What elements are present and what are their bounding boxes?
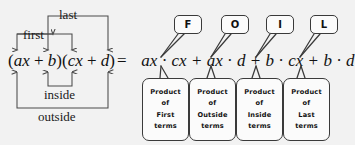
desc-outside-line4: terms [201, 121, 224, 133]
label-first: first [23, 28, 44, 41]
term-O: ax · d [207, 51, 246, 70]
desc-inside-line4: terms [248, 121, 271, 133]
letter-bubble-o: O [221, 15, 249, 34]
description-box-first: Product of First terms [142, 78, 189, 141]
term-I: b · cx [266, 51, 304, 70]
plus-sign-1: + [191, 51, 203, 70]
desc-last-line1: Product [291, 87, 322, 99]
arrow-inside [48, 72, 72, 86]
term-L: b · d [323, 51, 354, 70]
letter-bubble-i: I [266, 15, 294, 34]
plus-sign-2: + [250, 51, 262, 70]
desc-inside-line1: Product [244, 87, 275, 99]
description-box-inside: Product of Inside terms [236, 78, 283, 141]
desc-inside-line3: Inside [248, 110, 272, 122]
desc-first-line1: Product [150, 87, 181, 99]
desc-outside-line2: of [209, 98, 217, 110]
arrow-last [48, 16, 108, 50]
desc-last-line4: terms [295, 121, 318, 133]
expansion-expression: = ax · cx + ax · d + b · cx + b · d [117, 51, 355, 71]
letter-bubble-f: F [174, 15, 202, 34]
letter-bubble-l-text: L [321, 19, 327, 30]
plus-sign-3: + [308, 51, 320, 70]
desc-inside-line2: of [256, 98, 264, 110]
letter-bubble-i-text: I [278, 19, 282, 30]
desc-last-line2: of [303, 98, 311, 110]
letter-bubble-o-text: O [231, 19, 240, 30]
desc-first-line3: First [156, 110, 174, 122]
description-box-last: Product of Last terms [283, 78, 330, 141]
letter-bubble-f-text: F [185, 19, 192, 30]
left-diagram: first last inside outside [0, 0, 150, 145]
desc-first-line4: terms [154, 121, 177, 133]
binomial-expression: (ax + b)(cx + d) [8, 51, 115, 71]
label-last: last [59, 8, 77, 21]
letter-bubble-l: L [310, 15, 338, 34]
desc-last-line3: Last [298, 110, 315, 122]
equals-sign: = [117, 51, 127, 70]
label-inside: inside [44, 88, 75, 101]
desc-first-line2: of [162, 98, 170, 110]
desc-outside-line3: Outside [197, 110, 227, 122]
term-F: ax · cx [141, 51, 186, 70]
description-box-outside: Product of Outside terms [189, 78, 236, 141]
label-outside: outside [38, 110, 76, 123]
desc-outside-line1: Product [197, 87, 228, 99]
binomial-text: (ax + b)(cx + d) [8, 51, 115, 70]
